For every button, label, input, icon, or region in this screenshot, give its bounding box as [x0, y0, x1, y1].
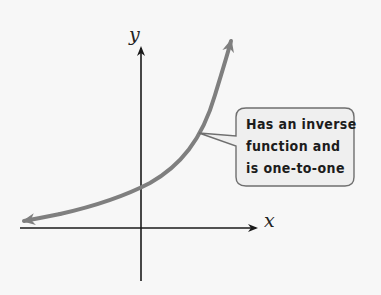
callout-line-2: function and — [246, 135, 348, 157]
x-axis-label: x — [264, 211, 275, 230]
function-curve — [60, 41, 231, 214]
callout-line-3: is one-to-one — [246, 157, 348, 179]
callout-line-1: Has an inverse — [246, 113, 348, 135]
function-graph-diagram: y x Has an inverse function and is one-t… — [0, 0, 381, 295]
function-curve-left-tail — [24, 214, 60, 221]
y-axis-label: y — [129, 25, 140, 44]
callout-text: Has an inverse function and is one-to-on… — [236, 108, 354, 186]
